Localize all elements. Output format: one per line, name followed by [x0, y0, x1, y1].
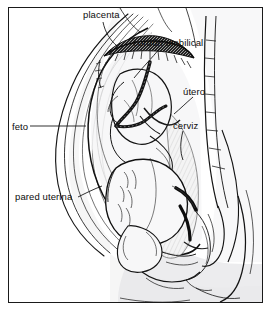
- illustration-figure: placenta cordón umbilical útero cerviz f…: [0, 0, 273, 312]
- label-cordon-umbilical: cordón umbilical: [133, 37, 203, 48]
- label-feto: feto: [12, 121, 28, 132]
- label-cerviz: cerviz: [173, 120, 198, 131]
- label-pared-uterina: pared uterina: [15, 191, 72, 202]
- label-placenta: placenta: [83, 9, 120, 20]
- label-utero: útero: [183, 86, 205, 97]
